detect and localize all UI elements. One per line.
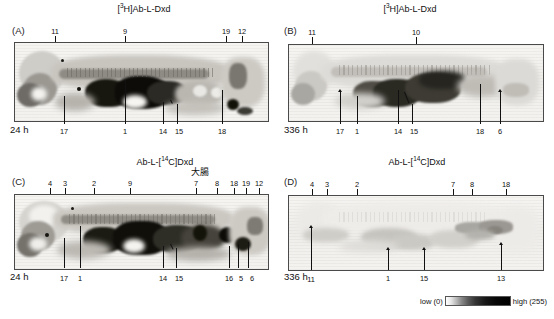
panel-b-bottom-label-6: 6 (494, 127, 506, 136)
panel-a-title: [3H]Ab-L-Dxd (84, 4, 204, 14)
panel-a-top-label-11: 11 (49, 27, 61, 36)
panel-a-bottom-label-14: 14 (157, 127, 169, 136)
panel-c-autoradiograph (14, 194, 269, 270)
panel-b-bottom-label-15: 15 (408, 127, 420, 136)
panel-a-leader-15 (177, 104, 178, 124)
panel-a-leader-17 (64, 96, 65, 124)
panel-b-rat-section (289, 45, 543, 121)
panel-c-bottom-label-16: 16 (223, 274, 235, 283)
panel-b-leader-17 (340, 92, 341, 124)
panel-d-title-prefix: Ab-L-[ (389, 157, 414, 167)
panel-d-arrowhead-1 (386, 247, 390, 250)
panel-b-timepoint: 336 h (284, 124, 308, 135)
panel-c-leader-16 (229, 246, 230, 268)
panel-d-leader-11 (311, 228, 312, 270)
panel-d-bottom-label-1: 1 (382, 274, 394, 283)
panel-b-autoradiograph (288, 44, 544, 122)
panel-a-rat-section (15, 43, 268, 121)
panel-b-bottom-label-18: 18 (474, 127, 486, 136)
panel-a-autoradiograph (14, 42, 269, 122)
panel-d-top-label-2: 2 (351, 180, 363, 189)
panel-c-bottom-label-15: 15 (173, 274, 185, 283)
panel-d-top-label-4: 4 (306, 180, 318, 189)
panel-b-leader-14 (398, 90, 399, 124)
panel-a-title-text: H]Ab-L-Dxd (124, 4, 171, 14)
panel-c-top-label-4: 4 (44, 179, 56, 188)
panel-d-bottom-label-15: 15 (418, 274, 430, 283)
panel-a-top-label-9: 9 (119, 27, 131, 36)
panel-b-bottom-label-1: 1 (351, 127, 363, 136)
panel-a-bottom-label-17: 17 (58, 127, 70, 136)
panel-a-bottom-label-1: 1 (119, 127, 131, 136)
panel-d-top-label-8: 8 (466, 180, 478, 189)
panel-b-top-label-11: 11 (306, 28, 318, 37)
panel-c-top-label-3: 3 (59, 179, 71, 188)
panel-d-leader-1 (388, 250, 389, 270)
panel-c-leader-1 (80, 226, 81, 268)
panel-c-top-label-8: 8 (211, 179, 223, 188)
panel-c-top-label-2: 2 (88, 179, 100, 188)
panel-a-bottom-label-18: 18 (216, 127, 228, 136)
intensity-scale-high-label: high (255) (513, 297, 547, 306)
panel-b-top-label-10: 10 (410, 28, 422, 37)
panel-c-leader-15 (176, 248, 177, 268)
panel-b-letter: (B) (284, 25, 297, 36)
panel-b-bottom-label-14: 14 (392, 127, 404, 136)
panel-b-title: [3H]Ab-L-Dxd (350, 4, 470, 14)
panel-c-top-label-7: 7 (190, 179, 202, 188)
panel-c-bottom-label-17: 17 (58, 274, 70, 283)
panel-a-timepoint: 24 h (10, 124, 29, 135)
panel-b-title-text: H]Ab-L-Dxd (390, 4, 437, 14)
panel-a-bottom-label-15: 15 (173, 127, 185, 136)
panel-c-title-text: C]Dxd (168, 157, 193, 167)
panel-c-letter: (C) (12, 176, 25, 187)
panel-d-leader-13 (501, 245, 502, 270)
panel-d-title-text: C]Dxd (420, 157, 445, 167)
panel-c-bottom-label-14: 14 (157, 274, 169, 283)
panel-d-leader-15 (424, 250, 425, 270)
panel-b-leader-15 (412, 104, 413, 124)
panel-b-leader-1 (357, 96, 358, 124)
panel-a-leader-14 (163, 102, 164, 124)
panel-b-leader-18 (480, 84, 481, 124)
panel-a-leader-18 (222, 90, 223, 124)
panel-c-timepoint: 24 h (10, 271, 29, 282)
panel-d-top-label-3: 3 (321, 180, 333, 189)
panel-c-top-label-12: 12 (253, 179, 265, 188)
panel-a-letter: (A) (12, 25, 25, 36)
panel-c-leader-14 (163, 246, 164, 268)
panel-c-top-label-18: 18 (228, 179, 240, 188)
panel-c-title-prefix: Ab-L-[ (137, 157, 162, 167)
panel-d-rat-section (289, 196, 543, 270)
panel-c-bottom-label-6: 6 (246, 274, 258, 283)
panel-d-bottom-label-11: 11 (305, 275, 317, 284)
panel-d-arrowhead-13 (499, 242, 503, 245)
panel-c-title: Ab-L-[14C]Dxd (100, 157, 230, 167)
panel-d-letter: (D) (284, 176, 297, 187)
panel-c-leader-5 (238, 244, 239, 268)
intensity-scale-gradient-bar (445, 296, 511, 306)
panel-d-autoradiograph (288, 195, 544, 271)
panel-c-rat-section (15, 195, 268, 269)
panel-a-top-label-19: 19 (220, 27, 232, 36)
panel-c-top-label-19: 19 (240, 179, 252, 188)
panel-b-arrowhead-17 (338, 89, 342, 92)
intensity-scale: low (0) high (255) (420, 296, 547, 306)
panel-c-leader-17 (64, 238, 65, 268)
panel-a-leader-1 (125, 80, 126, 124)
panel-c-bottom-label-1: 1 (74, 274, 86, 283)
panel-d-bottom-label-13: 13 (495, 274, 507, 283)
autoradiography-figure: [3H]Ab-L-Dxd (A) 11 9 19 12 (0, 0, 554, 319)
panel-b-bottom-label-17: 17 (334, 127, 346, 136)
panel-b-leader-6 (500, 92, 501, 124)
panel-c-organ-annotation: 大腸 (191, 165, 209, 178)
panel-d-top-label-18: 18 (500, 180, 512, 189)
panel-c-top-label-9: 9 (124, 179, 136, 188)
panel-d-title: Ab-L-[14C]Dxd (352, 157, 482, 167)
panel-c-leader-6 (248, 242, 249, 268)
panel-b-arrowhead-6 (498, 89, 502, 92)
panel-d-arrowhead-15 (422, 247, 426, 250)
panel-a-top-label-12: 12 (236, 27, 248, 36)
intensity-scale-low-label: low (0) (420, 297, 443, 306)
panel-d-top-label-7: 7 (447, 180, 459, 189)
